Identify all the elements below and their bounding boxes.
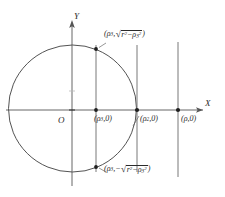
point-markers [69,47,180,169]
upper-sqrt: √ r2−ρ32 [116,29,143,40]
rho3-close-paren: ) [109,115,112,123]
upper-radical-sign: √ [116,30,121,41]
label-rho-on-axis: ( ρ ,0 ) [181,115,196,123]
figure-canvas: X Y O ( ρ 3 , √ r2−ρ32 ) ( ρ 3 , − √ r2−… [0,0,225,197]
x-axis [6,107,203,113]
label-lower-intersection: ( ρ 3 , − √ r2−ρ32 ) [104,164,150,175]
label-rho2-on-axis: ( ρ 2 ,0 ) [140,115,158,123]
point-rho-on-axis [176,108,180,112]
circle-radius-r [9,45,137,172]
upper-radicand-rho-exp: 2 [139,31,141,36]
y-axis-label: Y [74,12,79,21]
upper-radicand: r2−ρ32 [121,30,142,40]
x-axis-label: X [205,99,211,108]
point-upper-intersection [94,47,98,51]
upper-close-paren: ) [142,30,145,38]
label-rho3-on-axis: ( ρ 3 ,0 ) [94,115,112,123]
rho2-close-paren: ) [155,115,158,123]
rho-close-paren: ) [194,115,197,123]
lower-sign: − [115,165,120,173]
label-upper-intersection: ( ρ 3 , √ r2−ρ32 ) [104,29,145,40]
point-rho3-on-axis [94,108,98,112]
lower-radicand: r2−ρ32 [126,165,147,175]
point-lower-intersection [94,165,98,169]
point-rho2-on-axis [135,108,139,112]
lower-sqrt: √ r2−ρ32 [121,164,148,175]
lower-radical-sign: √ [121,165,126,176]
lower-close-paren: ) [148,165,151,173]
lower-radicand-rho-exp: 2 [144,166,146,171]
origin-label: O [58,116,65,125]
